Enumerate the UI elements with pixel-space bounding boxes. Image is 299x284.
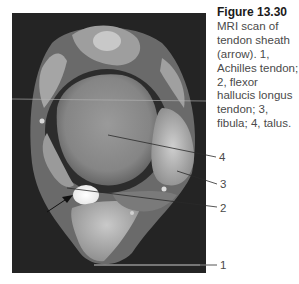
caption-line: tendon; 3, — [217, 103, 299, 117]
caption-line: Achilles tendon; — [217, 62, 299, 76]
label-3: 3 — [220, 178, 226, 190]
caption-line: hallucis longus — [217, 89, 299, 103]
caption-line: tendon sheath — [217, 34, 299, 48]
leader-line-2 — [67, 188, 217, 207]
label-2: 2 — [220, 202, 226, 214]
figure-title: Figure 13.30 — [217, 6, 299, 20]
caption-line: fibula; 4, talus. — [217, 117, 299, 131]
leader-line-3 — [177, 171, 217, 184]
label-4: 4 — [219, 151, 225, 163]
leader-line-4 — [108, 135, 216, 157]
label-1: 1 — [220, 259, 226, 271]
caption-line: (arrow). 1, — [217, 48, 299, 62]
arrow-icon — [62, 195, 73, 203]
caption-line: 2, flexor — [217, 76, 299, 90]
caption-line: MRI scan of — [217, 20, 299, 34]
figure-caption: Figure 13.30 MRI scan of tendon sheath (… — [217, 6, 299, 131]
